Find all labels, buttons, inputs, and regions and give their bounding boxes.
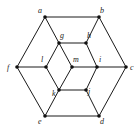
vertex-k [57, 88, 61, 92]
edge-m-k [59, 67, 72, 90]
vertex-label-e: e [38, 117, 42, 125]
edge-h-i [86, 43, 97, 67]
vertex-h [84, 41, 88, 45]
vertex-label-g: g [60, 31, 64, 40]
vertex-label-l: l [41, 55, 44, 64]
vertex-f [15, 65, 19, 69]
vertex-label-m: m [73, 55, 79, 64]
vertex-label-a: a [38, 6, 42, 15]
vertex-l [44, 65, 48, 69]
edge-e-f [17, 67, 45, 116]
edge-g-m [59, 43, 72, 67]
vertex-c [124, 65, 128, 69]
vertex-a [43, 15, 47, 19]
vertex-b [97, 15, 101, 19]
graph-diagram: abcdefghilmkj [0, 0, 138, 125]
vertex-e [43, 114, 47, 118]
vertex-label-j: j [87, 87, 91, 96]
edge-b-c [99, 17, 126, 67]
graph-labels: abcdefghilmkj [7, 6, 134, 125]
vertex-label-f: f [7, 63, 11, 72]
vertex-label-b: b [100, 6, 104, 15]
vertex-label-d: d [100, 117, 105, 125]
edge-c-d [99, 67, 126, 116]
vertex-i [95, 65, 99, 69]
edge-l-g [46, 43, 59, 67]
edge-a-g [45, 17, 59, 43]
edge-k-l [46, 67, 59, 90]
vertex-label-k: k [52, 89, 56, 98]
vertex-label-i: i [99, 55, 101, 64]
vertex-g [57, 41, 61, 45]
vertex-m [70, 65, 74, 69]
vertex-label-h: h [87, 31, 91, 40]
vertex-label-c: c [130, 63, 134, 72]
